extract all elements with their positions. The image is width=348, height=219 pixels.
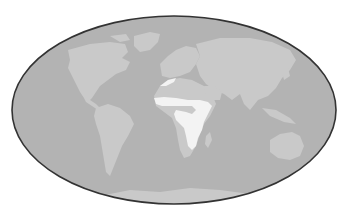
world-map: [0, 0, 348, 219]
world-map-svg: [0, 0, 348, 219]
